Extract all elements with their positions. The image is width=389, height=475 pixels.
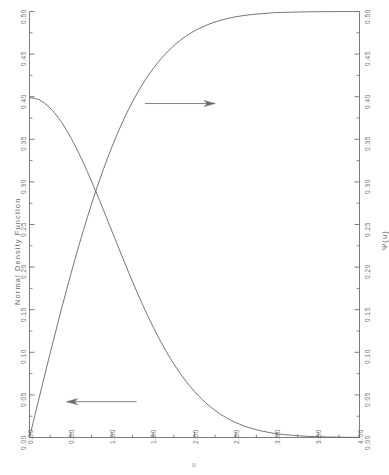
y2-tick-label: 0.25 [364, 221, 371, 236]
y-axis-title: Normal Density Function [13, 198, 22, 305]
annotations-group [67, 100, 216, 404]
y-tick-label: 0.00 [20, 434, 27, 449]
y2-tick-label: 0.45 [364, 51, 371, 66]
x-tick-label: 3.50 [315, 428, 322, 443]
curve-density [30, 98, 360, 438]
y-tick-label: 0.05 [20, 392, 27, 407]
x-tick-label: 1.50 [150, 428, 157, 443]
y2-tick-label: 0.20 [364, 264, 371, 279]
y-tick-label: 0.40 [20, 94, 27, 109]
chart-canvas [0, 0, 389, 475]
x-axis-title: u [192, 461, 196, 468]
y2-tick-label: 0.30 [364, 179, 371, 194]
x-tick-label: 0.00 [27, 428, 34, 443]
y-tick-label: 0.30 [20, 179, 27, 194]
x-tick-label: 3.00 [274, 428, 281, 443]
y2-tick-label: 0.00 [364, 434, 371, 449]
y2-tick-label: 0.40 [364, 94, 371, 109]
y2-tick-label: 0.15 [364, 307, 371, 322]
y-tick-label: 0.10 [20, 349, 27, 364]
x-tick-label: 0.50 [68, 428, 75, 443]
y2-axis-title: Ψ(u) [380, 230, 389, 250]
y2-tick-label: 0.10 [364, 349, 371, 364]
y2-tick-label: 0.35 [364, 136, 371, 151]
curve-psi [30, 12, 360, 438]
y-tick-label: 0.35 [20, 136, 27, 151]
y-tick-label: 0.15 [20, 307, 27, 322]
y2-tick-label: 0.05 [364, 392, 371, 407]
x-tick-label: 2.00 [192, 428, 199, 443]
curves-group [30, 12, 360, 438]
y-tick-label: 0.45 [20, 51, 27, 66]
y-tick-label: 0.50 [20, 8, 27, 23]
y2-tick-label: 0.50 [364, 8, 371, 23]
x-tick-label: 2.50 [233, 428, 240, 443]
x-tick-label: 1.00 [109, 428, 116, 443]
x-tick-label: 4.00 [357, 428, 364, 443]
axes-group [30, 12, 360, 438]
